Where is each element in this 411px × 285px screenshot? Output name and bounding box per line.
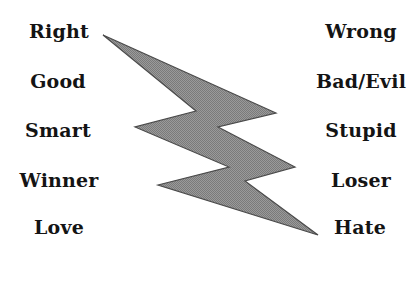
right-word-stupid: Stupid [325,119,396,141]
right-word-hate: Hate [334,216,386,238]
left-word-right: Right [29,20,89,42]
lightning-bolt-shape [103,35,318,235]
right-word-wrong: Wrong [325,20,396,42]
left-word-good: Good [30,70,86,92]
right-word-loser: Loser [331,169,391,191]
left-word-winner: Winner [19,169,98,191]
left-word-love: Love [34,216,84,238]
left-word-smart: Smart [25,119,91,141]
lightning-bolt-icon [0,0,411,285]
right-word-bad-evil: Bad/Evil [316,70,406,92]
